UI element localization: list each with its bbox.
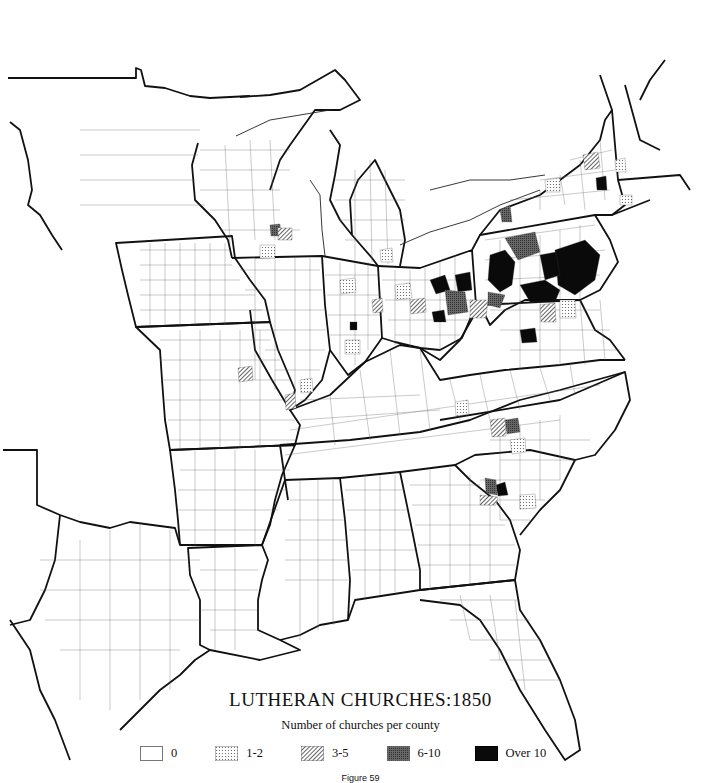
map-title: LUTHERAN CHURCHES:1850 xyxy=(0,689,721,711)
legend-swatch-dots xyxy=(215,746,238,761)
legend-label: 6-10 xyxy=(418,746,441,761)
legend-item-6-10: 6-10 xyxy=(387,746,441,761)
map-subtitle: Number of churches per county xyxy=(0,718,721,733)
legend-label: 1-2 xyxy=(246,746,263,761)
legend-label: 3-5 xyxy=(332,746,349,761)
legend-swatch-hatch xyxy=(301,746,324,761)
legend-item-1-2: 1-2 xyxy=(215,746,263,761)
legend-swatch-dense xyxy=(387,746,410,761)
legend: 0 1-2 3-5 6-10 Over 10 xyxy=(140,744,572,762)
legend-item-over-10: Over 10 xyxy=(475,746,547,761)
legend-item-0: 0 xyxy=(140,746,177,761)
legend-swatch-black xyxy=(475,746,498,761)
figure-caption: Figure 59 xyxy=(0,773,721,783)
legend-label: Over 10 xyxy=(506,746,547,761)
shaded-counties xyxy=(238,152,632,509)
legend-label: 0 xyxy=(171,746,177,761)
legend-swatch-blank xyxy=(140,746,163,761)
legend-item-3-5: 3-5 xyxy=(301,746,349,761)
